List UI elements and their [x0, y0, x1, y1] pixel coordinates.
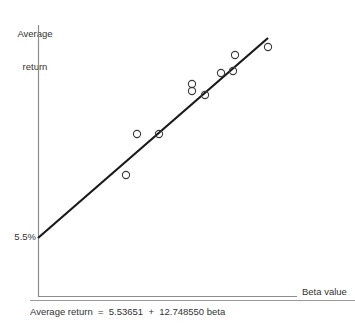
data-point	[133, 130, 140, 137]
plot-area	[0, 0, 355, 324]
scatter-points	[122, 43, 271, 178]
data-point	[217, 69, 224, 76]
regression-line	[38, 38, 268, 238]
data-point	[231, 51, 238, 58]
data-point	[264, 43, 271, 50]
scatter-chart-figure: Average return 5.5% Beta value Average r…	[0, 0, 355, 324]
data-point	[122, 171, 129, 178]
data-point	[188, 80, 195, 87]
regression-equation-caption: Average return = 5.53651 + 12.748550 bet…	[30, 306, 225, 317]
data-point	[188, 87, 195, 94]
